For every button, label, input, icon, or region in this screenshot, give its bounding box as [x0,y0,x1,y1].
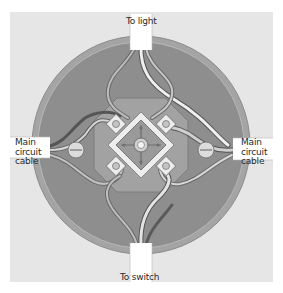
terminal-block [106,112,176,178]
junction-box-diagram: To light To switch Main circuit cable Ma… [0,0,283,293]
label-to-light: To light [126,17,157,27]
label-line: cable [241,157,267,167]
label-line: cable [15,157,41,167]
label-to-switch: To switch [120,273,159,283]
label-main-circuit-cable-right: Main circuit cable [241,138,267,167]
label-main-circuit-cable-left: Main circuit cable [15,138,41,167]
